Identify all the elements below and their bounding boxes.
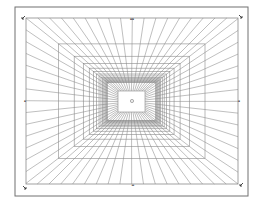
inner-window [118,91,145,112]
perspective-grid-canvas: ▪▪ ▬ ▪ ▪ [0,0,263,205]
top-marker: ▪▪ [130,17,134,21]
bottom-marker: ▬ [132,183,135,187]
left-marker: ▪ [24,99,26,103]
right-marker: ▪ [238,99,240,103]
perspective-grid: ▪▪ ▬ ▪ ▪ [0,0,263,205]
